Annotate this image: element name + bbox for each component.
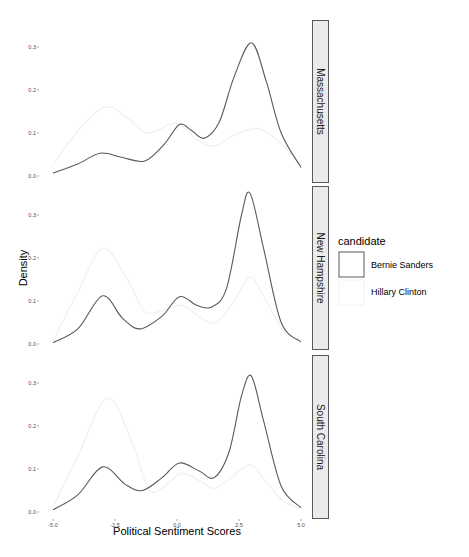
density-curve-bernie <box>53 192 301 343</box>
x-tick-label: 2.5 <box>235 522 243 528</box>
y-tick-label: 0.0 <box>28 509 36 515</box>
y-tick-label: 0.0 <box>28 173 36 179</box>
facet-strip-label: South Carolina <box>315 404 326 471</box>
y-tick-label: 0.3 <box>28 44 36 50</box>
y-tick-label: 0.3 <box>28 380 36 386</box>
x-tick-label: 0.0 <box>173 522 181 528</box>
density-curve-hillary <box>53 107 301 165</box>
density-chart: 0.00.10.20.3Massachusetts0.00.10.20.3New… <box>0 0 469 557</box>
y-tick-label: 0.1 <box>28 466 36 472</box>
y-tick-label: 0.3 <box>28 212 36 218</box>
facet-strip-label: Massachusetts <box>315 68 326 135</box>
y-tick-label: 0.2 <box>28 423 36 429</box>
density-curve-hillary <box>53 398 301 509</box>
density-curve-bernie <box>53 43 301 173</box>
legend-key-bernie <box>339 252 364 277</box>
legend-label-hillary: Hillary Clinton <box>371 287 427 297</box>
facet-panel-massachusetts: 0.00.10.20.3Massachusetts <box>28 21 328 183</box>
y-tick-label: 0.1 <box>28 130 36 136</box>
facet-panel-new-hampshire: 0.00.10.20.3New Hampshire <box>28 187 328 350</box>
legend-title: candidate <box>338 235 386 247</box>
y-tick-label: 0.1 <box>28 298 36 304</box>
legend-key-hillary <box>339 280 364 305</box>
facet-panels: 0.00.10.20.3Massachusetts0.00.10.20.3New… <box>28 21 328 519</box>
facet-strip: New Hampshire <box>313 187 329 350</box>
y-axis-title: Density <box>17 249 29 286</box>
y-tick-label: 0.2 <box>28 87 36 93</box>
legend: candidate Bernie Sanders Hillary Clinton <box>338 235 434 305</box>
y-tick-label: 0.2 <box>28 255 36 261</box>
facet-strip: Massachusetts <box>313 21 329 183</box>
x-axis-ticks: -5.0-2.50.02.55.0 <box>48 519 305 528</box>
facet-panel-south-carolina: 0.00.10.20.3South Carolina <box>28 356 328 519</box>
legend-label-bernie: Bernie Sanders <box>371 260 434 270</box>
x-tick-label: 5.0 <box>297 522 305 528</box>
x-tick-label: -5.0 <box>48 522 57 528</box>
facet-strip: South Carolina <box>313 356 329 519</box>
y-tick-label: 0.0 <box>28 341 36 347</box>
density-curve-bernie <box>53 375 301 510</box>
x-tick-label: -2.5 <box>110 522 119 528</box>
facet-strip-label: New Hampshire <box>315 232 326 304</box>
density-curve-hillary <box>53 248 301 341</box>
